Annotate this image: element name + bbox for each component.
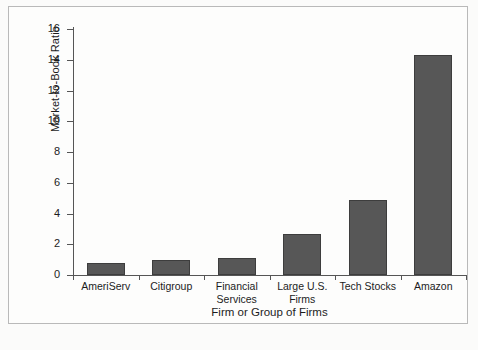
category-label-line: Financial <box>204 280 270 293</box>
category-label-line: Services <box>204 293 270 306</box>
bar <box>414 55 452 275</box>
x-axis-category-label: Large U.S.Firms <box>270 280 336 305</box>
bar <box>349 200 387 275</box>
bar-chart: 0246810121416 Market-to-Book Ratio Ameri… <box>0 0 478 350</box>
category-label-line: Amazon <box>401 280 467 293</box>
x-axis-title-text: Firm or Group of Firms <box>73 306 466 318</box>
bars-layer <box>73 29 466 275</box>
x-axis-category-label: Tech Stocks <box>335 280 401 293</box>
x-axis-category-label: AmeriServ <box>73 280 139 293</box>
x-axis-tick <box>466 275 467 280</box>
category-label-line: Citigroup <box>139 280 205 293</box>
category-label-line: Large U.S. <box>270 280 336 293</box>
x-axis-category-label: Citigroup <box>139 280 205 293</box>
bar <box>152 260 190 275</box>
bar <box>87 263 125 275</box>
y-axis-tick-label: 2 <box>0 237 60 250</box>
chart-frame: 0246810121416 Market-to-Book Ratio Ameri… <box>8 6 468 324</box>
y-axis-title-text: Market-to-Book Ratio <box>49 0 61 164</box>
y-axis-tick-label: 0 <box>0 268 60 281</box>
bar <box>283 234 321 276</box>
figure-canvas: 0246810121416 Market-to-Book Ratio Ameri… <box>0 0 478 350</box>
bar <box>218 258 256 275</box>
category-label-line: AmeriServ <box>73 280 139 293</box>
category-label-line: Tech Stocks <box>335 280 401 293</box>
category-label-line: Firms <box>270 293 336 306</box>
x-axis-category-label: FinancialServices <box>204 280 270 305</box>
y-axis-tick-label: 4 <box>0 207 60 220</box>
y-axis-tick-label: 6 <box>0 176 60 189</box>
x-axis-category-label: Amazon <box>401 280 467 293</box>
